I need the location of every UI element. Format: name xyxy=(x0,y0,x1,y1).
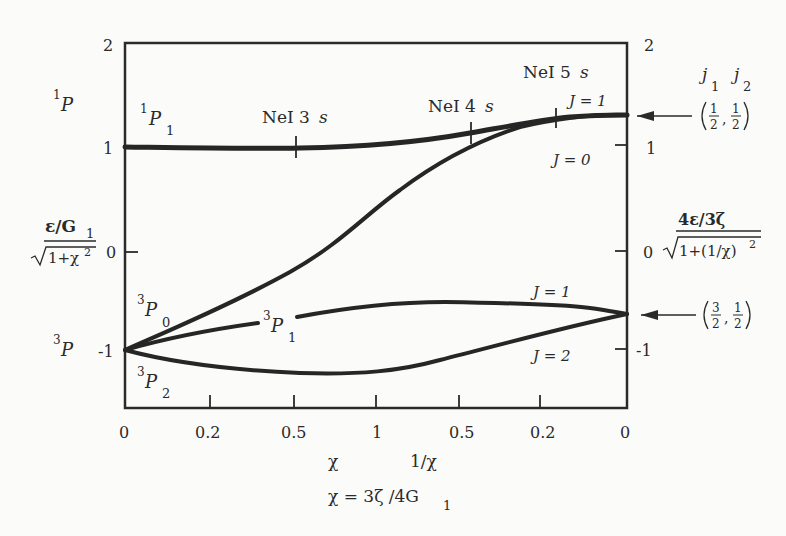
nei-4s-text: NeI 4 xyxy=(428,96,476,116)
y-right-num: 4ε/3ζ xyxy=(678,210,725,229)
x-tick-1: 1 xyxy=(372,423,382,442)
coupling-half-half: 1 2 , 1 2 xyxy=(702,102,748,132)
nei-4s-orbital: s xyxy=(485,96,494,116)
label-J1-upper: J = 1 xyxy=(566,92,607,110)
label-3P1: 3 P 1 xyxy=(263,309,296,345)
coupling-bottom-b-den: 2 xyxy=(734,317,742,331)
x-tick-0.5-right: 0.5 xyxy=(449,423,474,442)
x-ticks xyxy=(210,395,540,408)
label-1P1-sup: 1 xyxy=(140,102,148,116)
label-3P2-sup: 3 xyxy=(137,365,145,379)
y-right-tick-0: 0 xyxy=(643,243,653,262)
y-right-den: 1+(1/χ) xyxy=(679,242,737,260)
arrow-top xyxy=(637,111,692,121)
jj-header: j 1 j 2 xyxy=(698,64,751,94)
label-3P1-sup: 3 xyxy=(263,309,271,323)
x-tick-0-left: 0 xyxy=(119,423,129,442)
coupling-top-a-num: 1 xyxy=(710,102,718,116)
label-nei-3s: NeI 3 s xyxy=(262,107,328,127)
nei-3s-text: NeI 3 xyxy=(262,107,310,127)
coupling-top-b-den: 2 xyxy=(732,118,740,132)
label-3P1-main: P xyxy=(270,315,284,336)
label-3P0-sub: 0 xyxy=(162,315,170,330)
coupling-top-a-den: 2 xyxy=(710,118,718,132)
coupling-top-b-num: 1 xyxy=(732,102,740,116)
label-1P1-sub: 1 xyxy=(166,123,174,138)
term-3P: P xyxy=(60,339,74,360)
y-right-tick-2: 2 xyxy=(644,36,654,55)
coupling-bottom-comma: , xyxy=(724,310,728,326)
term-3P-sup: 3 xyxy=(53,333,61,347)
arrow-bottom xyxy=(641,310,696,320)
label-3P2-sub: 2 xyxy=(162,386,170,401)
coupling-bottom-b-num: 1 xyxy=(734,301,742,315)
y-left-tick-1: 1 xyxy=(103,139,113,158)
label-3P2-main: P xyxy=(144,371,158,392)
label-3P2: 3 P 2 xyxy=(137,365,170,401)
coupling-top-comma: , xyxy=(722,111,726,127)
y-left-axis-label: ε/G 1 1+χ 2 xyxy=(31,216,96,267)
label-1P1-main: P xyxy=(148,108,162,129)
nei-5s-text: NeI 5 xyxy=(523,62,571,82)
y-left-den-sup: 2 xyxy=(84,246,91,259)
label-3P0-sup: 3 xyxy=(137,293,145,307)
nei-5s-orbital: s xyxy=(580,62,589,82)
energy-level-diagram: 2 1 0 -1 2 1 0 -1 0 0.2 0.5 1 0.5 0.2 0 … xyxy=(0,0,786,536)
term-1P-sup: 1 xyxy=(53,88,61,102)
j1-letter: j xyxy=(698,64,708,84)
x-formula: χ = 3ζ /4G xyxy=(328,486,419,506)
y-left-num-sub: 1 xyxy=(86,226,94,241)
label-nei-4s: NeI 4 s xyxy=(428,96,494,116)
y-right-den-sup: 2 xyxy=(749,238,756,251)
curve-3P1-segment-a xyxy=(125,323,258,350)
j2-letter: j xyxy=(730,64,740,84)
label-3P0-main: P xyxy=(144,299,158,320)
y-left-num: ε/G xyxy=(45,216,76,236)
y-left-tick-0: 0 xyxy=(106,243,116,262)
label-J2: J = 2 xyxy=(530,347,571,365)
nei-3s-orbital: s xyxy=(319,107,328,127)
y-right-tick-neg1: -1 xyxy=(636,341,652,360)
y-left-tick-neg1: -1 xyxy=(98,342,114,361)
term-1P: P xyxy=(60,94,74,115)
label-J0: J = 0 xyxy=(550,151,591,169)
x-label-chi: χ xyxy=(328,451,338,471)
right-y-ticks xyxy=(615,145,627,349)
j1-sub: 1 xyxy=(711,79,719,94)
x-tick-0.5-left: 0.5 xyxy=(281,423,306,442)
x-label-inv-chi: 1/χ xyxy=(410,451,437,471)
label-3P0: 3 P 0 xyxy=(137,293,170,330)
x-tick-0-right: 0 xyxy=(620,423,630,442)
y-right-axis-label: 4ε/3ζ 1+(1/χ) 2 xyxy=(663,210,761,260)
y-left-tick-2: 2 xyxy=(103,36,113,55)
y-right-tick-1: 1 xyxy=(646,139,656,158)
label-3P1-sub: 1 xyxy=(288,330,296,345)
label-J1-lower: J = 1 xyxy=(530,283,571,301)
curve-3P1-segment-b xyxy=(297,302,627,317)
x-tick-0.2-left: 0.2 xyxy=(195,423,220,442)
j2-sub: 2 xyxy=(743,79,751,94)
x-formula-sub: 1 xyxy=(443,498,451,513)
coupling-bottom-a-num: 3 xyxy=(712,301,720,315)
label-1P1: 1 P 1 xyxy=(140,102,174,138)
label-nei-5s: NeI 5 s xyxy=(523,62,589,82)
nei-tick-marks xyxy=(296,108,556,158)
coupling-bottom-a-den: 2 xyxy=(712,317,720,331)
coupling-threehalf-half: 3 2 , 1 2 xyxy=(704,301,750,331)
x-tick-labels: 0 0.2 0.5 1 0.5 0.2 0 xyxy=(119,423,630,442)
x-tick-0.2-right: 0.2 xyxy=(530,423,555,442)
y-left-den: 1+χ xyxy=(48,249,79,267)
